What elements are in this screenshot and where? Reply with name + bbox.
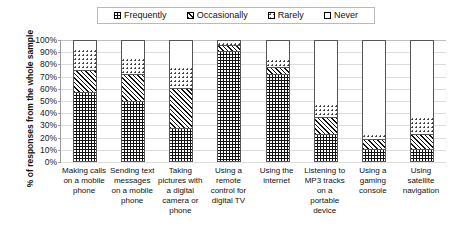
bar-stack[interactable] xyxy=(73,40,97,162)
bar-segment-never[interactable] xyxy=(315,41,337,105)
bar-stack[interactable] xyxy=(314,40,338,162)
legend-swatch-frequently-icon xyxy=(114,12,121,19)
bar-segment-occasionally[interactable] xyxy=(411,135,433,150)
bar-segment-frequently[interactable] xyxy=(267,75,289,162)
legend-label-never: Never xyxy=(334,11,358,20)
x-axis-category-label: Using a gaming console xyxy=(349,166,397,246)
chart-legend: Frequently Occasionally Rarely Never xyxy=(97,7,375,24)
bar-slot xyxy=(398,40,446,162)
bar-segment-never[interactable] xyxy=(170,41,192,68)
bar-slot xyxy=(302,40,350,162)
y-axis-tick-label: 100% xyxy=(35,36,57,45)
x-axis-category-label: Taking pictures with a digital camera or… xyxy=(156,166,204,246)
bar-slot xyxy=(205,40,253,162)
y-axis-tick-label: 30% xyxy=(40,121,57,130)
bar-slot xyxy=(254,40,302,162)
y-axis-tick-label: 70% xyxy=(40,72,57,81)
y-axis-tick-label: 60% xyxy=(40,84,57,93)
legend-item-occasionally[interactable]: Occasionally xyxy=(187,11,248,20)
x-axis-category-label: Making calls on a mobile phone xyxy=(60,166,108,246)
bar-segment-occasionally[interactable] xyxy=(315,118,337,135)
bars-group xyxy=(61,40,446,162)
bar-segment-occasionally[interactable] xyxy=(122,75,144,102)
y-axis-tick-label: 20% xyxy=(40,133,57,142)
gridline xyxy=(61,162,446,163)
bar-segment-rarely[interactable] xyxy=(267,60,289,67)
y-axis-tick-label: 90% xyxy=(40,48,57,57)
bar-segment-rarely[interactable] xyxy=(315,105,337,118)
bar-segment-never[interactable] xyxy=(267,41,289,60)
bar-segment-occasionally[interactable] xyxy=(363,140,385,150)
legend-item-never[interactable]: Never xyxy=(324,11,358,20)
y-axis-tick-label: 80% xyxy=(40,60,57,69)
bar-segment-never[interactable] xyxy=(411,41,433,118)
bar-segment-frequently[interactable] xyxy=(74,93,96,162)
bar-slot xyxy=(350,40,398,162)
bar-stack[interactable] xyxy=(410,40,434,162)
legend-label-occasionally: Occasionally xyxy=(197,11,248,20)
bar-segment-occasionally[interactable] xyxy=(267,68,289,75)
legend-swatch-occasionally-icon xyxy=(187,12,194,19)
bar-segment-rarely[interactable] xyxy=(74,50,96,72)
x-axis-category-label: Using a remote control for digital TV xyxy=(204,166,252,246)
x-axis-category-label: Sending text messages on a mobile phone xyxy=(108,166,156,246)
bar-slot xyxy=(109,40,157,162)
bar-stack[interactable] xyxy=(266,40,290,162)
bar-stack[interactable] xyxy=(217,40,241,162)
legend-swatch-rarely-icon xyxy=(268,12,275,19)
legend-swatch-never-icon xyxy=(324,12,331,19)
bar-stack[interactable] xyxy=(169,40,193,162)
y-axis-tick-label: 50% xyxy=(40,97,57,106)
bar-segment-rarely[interactable] xyxy=(411,118,433,135)
plot-area: 100%90%80%70%60%50%40%30%20%10%0% xyxy=(60,40,446,163)
bar-segment-frequently[interactable] xyxy=(363,150,385,162)
legend-item-rarely[interactable]: Rarely xyxy=(268,11,304,20)
x-axis-category-label: Using satellite navigation xyxy=(397,166,445,246)
bar-segment-frequently[interactable] xyxy=(170,129,192,162)
y-axis-title: % of responses from the whole sample xyxy=(26,19,35,199)
y-axis-tick-label: 10% xyxy=(40,145,57,154)
bar-segment-occasionally[interactable] xyxy=(170,89,192,129)
legend-item-frequently[interactable]: Frequently xyxy=(114,11,167,20)
bar-slot xyxy=(61,40,109,162)
y-axis-tick-mark xyxy=(58,162,61,163)
legend-label-frequently: Frequently xyxy=(124,11,167,20)
bar-segment-frequently[interactable] xyxy=(315,135,337,162)
bar-segment-rarely[interactable] xyxy=(170,68,192,90)
y-axis-tick-label: 0% xyxy=(45,158,57,167)
x-axis-category-label: Using the internet xyxy=(253,166,301,246)
legend-label-rarely: Rarely xyxy=(278,11,304,20)
bar-segment-frequently[interactable] xyxy=(122,102,144,163)
x-axis-category-label: Listening to MP3 tracks on a portable de… xyxy=(301,166,349,246)
bar-stack[interactable] xyxy=(362,40,386,162)
bar-segment-never[interactable] xyxy=(363,41,385,135)
bar-stack[interactable] xyxy=(121,40,145,162)
bar-segment-rarely[interactable] xyxy=(122,59,144,75)
bar-segment-frequently[interactable] xyxy=(218,52,240,162)
bar-segment-never[interactable] xyxy=(74,41,96,49)
bar-segment-frequently[interactable] xyxy=(411,150,433,162)
bar-segment-never[interactable] xyxy=(122,41,144,59)
bar-segment-occasionally[interactable] xyxy=(74,71,96,93)
bar-slot xyxy=(157,40,205,162)
x-axis-category-labels: Making calls on a mobile phoneSending te… xyxy=(60,166,445,246)
stacked-bar-chart: Frequently Occasionally Rarely Never % o… xyxy=(0,0,451,248)
y-axis-tick-label: 40% xyxy=(40,109,57,118)
